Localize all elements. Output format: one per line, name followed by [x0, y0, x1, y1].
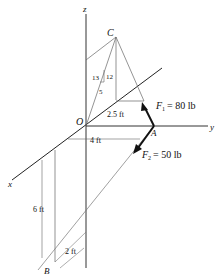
diagram-canvas: z y x O C A B 13 12 5 2.5 ft 4 ft 6 ft 2…: [0, 0, 224, 279]
dim-2-5ft: 2.5 ft: [107, 110, 125, 119]
z-axis-label: z: [82, 4, 87, 14]
dim-6ft: 6 ft: [33, 205, 45, 214]
slope-rise: 12: [106, 73, 114, 81]
statics-diagram: z y x O C A B 13 12 5 2.5 ft 4 ft 6 ft 2…: [0, 0, 224, 279]
origin-label: O: [76, 116, 83, 127]
f1-vector: [145, 108, 154, 126]
point-a-label: A: [150, 128, 157, 138]
point-b-label: B: [44, 266, 50, 276]
slope-hyp: 13: [92, 74, 100, 82]
dim-2ft: 2 ft: [65, 247, 77, 256]
slope-triangle: [100, 70, 104, 82]
y-axis-label: y: [209, 122, 214, 132]
x-axis-label: x: [7, 179, 12, 189]
f1-label: F1= 80 lb: [155, 100, 196, 112]
c-to-z-line: [86, 37, 116, 60]
slope-run: 5: [99, 88, 103, 96]
dim-4ft: 4 ft: [90, 136, 102, 145]
f2-label: F2= 50 lb: [141, 149, 182, 161]
point-c-label: C: [107, 27, 114, 38]
f1-arrowhead: [141, 102, 148, 111]
